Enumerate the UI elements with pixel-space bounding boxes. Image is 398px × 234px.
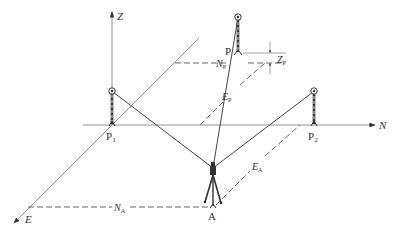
n-axis-label: N <box>378 119 387 131</box>
a-label: A <box>208 210 216 222</box>
ea-label: EA <box>251 161 263 173</box>
zp-measure: ZP <box>243 42 287 74</box>
zp-label: ZP <box>277 54 287 66</box>
prism-pole-p1: P1 <box>106 88 116 144</box>
z-axis: Z <box>112 10 124 125</box>
na-measure: NA <box>28 202 208 214</box>
ep-label: EP <box>221 91 232 103</box>
p-label: P <box>225 45 231 57</box>
n-axis: N <box>83 119 387 131</box>
prism-pole-p2: P2 <box>308 88 318 144</box>
ep-measure: EP <box>200 63 265 125</box>
total-station-a: A <box>204 162 223 222</box>
np-label: NP <box>215 58 227 70</box>
survey-diagram: Z N E NP ZP EP EA <box>0 0 398 234</box>
ea-measure: EA <box>216 125 300 205</box>
z-axis-label: Z <box>117 10 124 22</box>
e-axis-label: E <box>24 213 32 225</box>
sight-lines <box>113 17 313 168</box>
p2-label: P2 <box>308 130 318 144</box>
total-station-icon <box>210 166 216 175</box>
p1-label: P1 <box>106 130 116 144</box>
na-label: NA <box>113 202 126 214</box>
prism-pole-p: P <box>225 14 242 57</box>
